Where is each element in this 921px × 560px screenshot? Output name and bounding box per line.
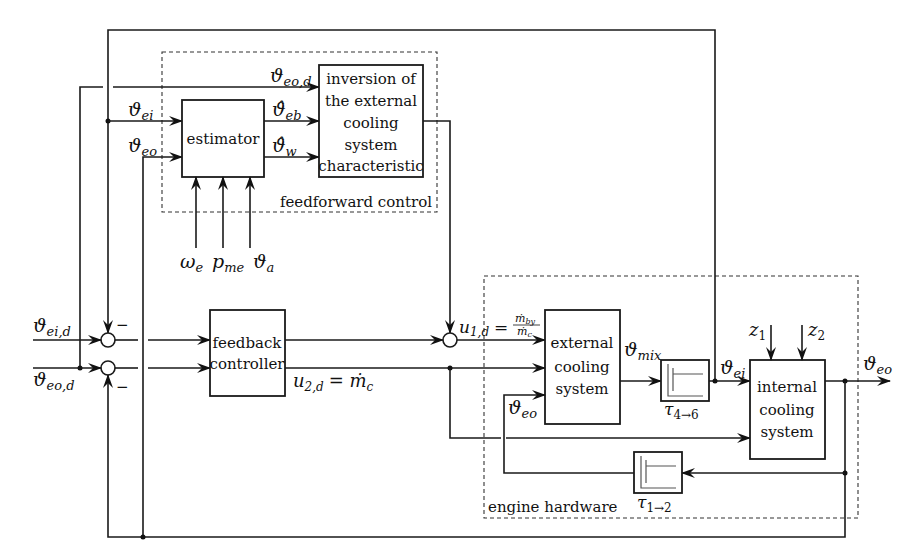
feedforward-group-label: feedforward control xyxy=(280,193,432,211)
label-theta-eo-out: ϑeo xyxy=(863,352,892,377)
label-p-me: pme xyxy=(212,250,244,275)
internal-label-line: cooling xyxy=(759,401,815,419)
external-label-line: system xyxy=(556,380,609,398)
label-u1d-numerator: ṁby xyxy=(515,312,536,326)
label-theta-eo-top: ϑeo xyxy=(128,134,157,159)
label-z2: z2 xyxy=(807,319,825,343)
u2-branch xyxy=(450,368,501,438)
label-theta-ei-top: ϑei xyxy=(128,98,153,123)
summer-u1 xyxy=(443,333,457,347)
label-u2d: u2,d= ṁc xyxy=(293,370,374,394)
junction-dot xyxy=(141,535,146,540)
feedback-controller-block[interactable] xyxy=(210,310,285,396)
label-omega-e: ωe xyxy=(180,250,204,275)
minus-sign: − xyxy=(116,316,129,334)
label-theta-a: ϑa xyxy=(253,250,274,275)
feedback-label-line: controller xyxy=(210,355,286,373)
label-tau46: τ4→6 xyxy=(664,399,699,422)
cooling-control-block-diagram: estimator inversion of the external cool… xyxy=(0,0,921,560)
label-theta-w-hat: ϑ̂w xyxy=(272,134,297,159)
junction-dot xyxy=(713,379,718,384)
label-u1d: u1,d= xyxy=(459,317,508,339)
inversion-label-line: the external xyxy=(325,92,417,110)
engine-hardware-label: engine hardware xyxy=(488,498,618,516)
inversion-label-line: system xyxy=(345,136,398,154)
label-theta-ei-hw: ϑei xyxy=(720,356,745,381)
inversion-label-line: characteristic xyxy=(318,157,423,175)
label-theta-eo-hw: ϑeo xyxy=(508,396,537,421)
estimator-label: estimator xyxy=(187,130,261,148)
label-theta-eo-d-top: ϑeo,d xyxy=(270,64,312,89)
minus-sign: − xyxy=(116,378,129,396)
label-theta-mix: ϑmix xyxy=(624,338,662,363)
label-theta-ei-d: ϑei,d xyxy=(33,314,71,339)
label-theta-eo-d: ϑeo,d xyxy=(33,368,75,393)
feedforward-output-line xyxy=(423,121,450,333)
label-theta-eb-hat: ϑ̂eb xyxy=(272,98,302,123)
theta-eo-to-estimator xyxy=(143,157,182,537)
summer-eo xyxy=(101,361,115,375)
label-u1d-denominator: ṁc xyxy=(517,325,532,339)
feedback-label-line: feedback xyxy=(213,334,283,352)
label-z1: z1 xyxy=(748,319,766,343)
theta-eo-feedback-line xyxy=(108,375,845,537)
inversion-label-line: inversion of xyxy=(326,70,417,88)
label-tau12: τ1→2 xyxy=(637,492,672,515)
external-label-line: external xyxy=(551,334,614,352)
theta-eo-d-branch xyxy=(80,87,103,368)
summer-ei xyxy=(101,333,115,347)
internal-label-line: internal xyxy=(757,378,817,396)
inversion-label-line: cooling xyxy=(343,114,399,132)
internal-label-line: system xyxy=(761,423,814,441)
external-label-line: cooling xyxy=(554,358,610,376)
